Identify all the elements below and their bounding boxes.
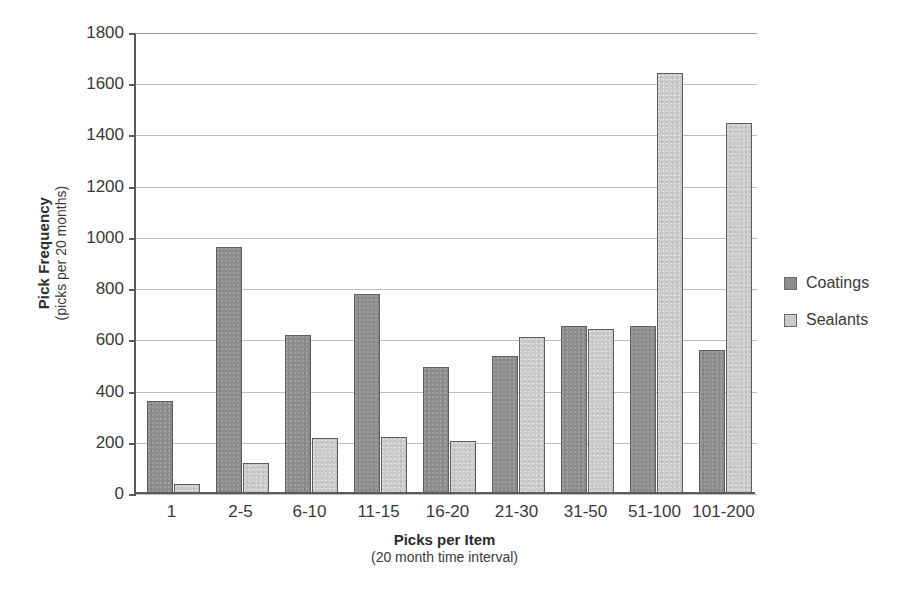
bar-chart: Pick Frequency (picks per 20 months) 020… [0,0,898,591]
x-axis-title: Picks per Item (20 month time interval) [134,531,755,566]
bar-group [423,31,476,492]
bar-group [561,31,614,492]
y-axis-tick [129,33,136,35]
y-axis-tick [129,187,136,189]
y-axis-tick [129,84,136,86]
x-axis-tick-label: 2-5 [228,502,253,522]
legend: Coatings Sealants [784,274,869,329]
bar-sealants-11-15 [381,437,407,492]
bar-group [630,31,683,492]
y-axis-title-main: Pick Frequency [35,123,53,383]
bar-sealants-31-50 [588,329,614,492]
x-axis-tick-label: 51-100 [628,502,681,522]
y-axis-tick [129,135,136,137]
legend-swatch-coatings-icon [784,277,797,290]
x-axis-tick-label: 101-200 [692,502,754,522]
legend-label-sealants: Sealants [806,311,868,329]
bar-group [216,31,269,492]
bar-coatings-1 [147,401,173,492]
bar-coatings-6-10 [285,335,311,493]
bar-sealants-16-20 [450,441,476,492]
x-axis-tick-label: 16-20 [426,502,469,522]
bar-sealants-2-5 [243,463,269,492]
x-axis-title-sub: (20 month time interval) [134,549,755,566]
legend-label-coatings: Coatings [806,274,869,292]
y-axis-tick [129,392,136,394]
bar-sealants-1 [174,484,200,492]
bar-sealants-51-100 [657,73,683,492]
y-axis-tick [129,494,136,496]
y-axis-tick [129,289,136,291]
bars-layer [136,31,757,492]
y-axis-tick-label: 1600 [64,74,124,94]
y-axis-tick-label: 1200 [64,177,124,197]
bar-coatings-31-50 [561,326,587,492]
plot-area: 020040060080010001200140016001800 [134,33,755,494]
bar-group [492,31,545,492]
bar-sealants-6-10 [312,438,338,492]
x-axis-tick-label: 11-15 [357,502,399,522]
legend-item-sealants: Sealants [784,311,869,329]
y-axis-tick-label: 1400 [64,125,124,145]
x-axis-tick-label: 1 [167,502,176,522]
bar-sealants-101-200 [726,123,752,492]
y-axis-tick-label: 800 [64,279,124,299]
y-axis-tick-label: 400 [64,382,124,402]
legend-swatch-sealants-icon [784,314,797,327]
legend-item-coatings: Coatings [784,274,869,292]
x-axis-title-main: Picks per Item [134,531,755,549]
y-axis-tick-label: 1800 [64,23,124,43]
y-axis-tick-label: 200 [64,433,124,453]
bar-coatings-51-100 [630,326,656,492]
y-axis-tick [129,238,136,240]
bar-coatings-101-200 [699,350,725,492]
y-axis-tick-label: 1000 [64,228,124,248]
bar-group [354,31,407,492]
bar-group [699,31,752,492]
bar-coatings-16-20 [423,367,449,492]
y-axis-tick-label: 0 [64,484,124,504]
bar-coatings-21-30 [492,356,518,492]
bar-group [285,31,338,492]
y-axis-tick [129,340,136,342]
bar-group [147,31,200,492]
bar-sealants-21-30 [519,337,545,492]
y-axis-tick [129,443,136,445]
gridline [136,494,757,495]
bar-coatings-2-5 [216,247,242,492]
bar-coatings-11-15 [354,294,380,492]
y-axis-tick-label: 600 [64,330,124,350]
x-axis-tick-label: 21-30 [495,502,538,522]
x-axis-tick-label: 6-10 [292,502,326,522]
x-axis-tick-label: 31-50 [564,502,607,522]
